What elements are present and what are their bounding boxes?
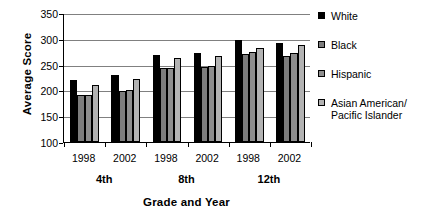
bar	[111, 75, 118, 142]
bar	[235, 40, 242, 142]
bar-group	[64, 14, 105, 142]
legend-label: Hispanic	[331, 68, 423, 80]
bar-group	[270, 14, 311, 142]
bar	[215, 56, 222, 142]
bar	[242, 54, 249, 142]
y-axis-tick-label: 350	[26, 9, 58, 19]
legend-label-line2: Pacific Islander	[331, 109, 423, 121]
bar	[194, 53, 201, 142]
legend-label: White	[331, 10, 423, 22]
bar	[119, 91, 126, 142]
x-axis-grade-label: 8th	[147, 173, 227, 185]
y-axis-tick-labels: 350300250200150100	[24, 14, 58, 143]
bar	[126, 90, 133, 142]
bar	[160, 68, 167, 142]
x-axis-tick-mark	[146, 142, 147, 147]
bar-group	[146, 14, 187, 142]
y-axis-tick-label: 250	[26, 61, 58, 71]
x-axis-grade-label: 12th	[229, 173, 309, 185]
y-axis-tick-label: 150	[26, 112, 58, 122]
x-axis-year-label: 2002	[103, 152, 147, 164]
bar	[85, 95, 92, 142]
legend-item: Hispanic	[318, 68, 423, 80]
x-axis-title: Grade and Year	[63, 196, 310, 208]
bar	[77, 95, 84, 142]
bar	[70, 80, 77, 142]
x-axis-tick-mark	[311, 142, 312, 147]
bar	[276, 43, 283, 142]
y-axis-tick-label: 100	[26, 138, 58, 148]
y-axis-tick-mark	[59, 143, 63, 144]
legend-item: White	[318, 10, 423, 22]
bar	[201, 67, 208, 142]
bar-group	[188, 14, 229, 142]
x-axis-grade-label: 4th	[64, 173, 144, 185]
x-axis-tick-mark	[105, 142, 106, 147]
x-axis-tick-mark	[270, 142, 271, 147]
bar	[133, 79, 140, 142]
bar	[256, 48, 263, 142]
legend-label: Black	[331, 39, 423, 51]
bar	[249, 52, 256, 142]
legend-swatch-white-icon	[318, 12, 325, 19]
x-axis-tick-mark	[64, 142, 65, 147]
x-axis-tick-mark	[229, 142, 230, 147]
bar-group	[105, 14, 146, 142]
legend-swatch-asian-icon	[318, 99, 325, 106]
x-axis-year-label: 2002	[267, 152, 311, 164]
legend-label: Asian American/Pacific Islander	[331, 97, 423, 121]
y-axis-tick-label: 300	[26, 35, 58, 45]
bar	[283, 56, 290, 142]
x-axis-tick-mark	[188, 142, 189, 147]
bar	[290, 53, 297, 142]
legend-swatch-hispanic-icon	[318, 70, 325, 77]
x-axis-year-label: 2002	[185, 152, 229, 164]
legend-item: Black	[318, 39, 423, 51]
bar	[153, 55, 160, 142]
bar-chart: Average Score 350300250200150100 1998200…	[0, 0, 425, 222]
legend-item: Asian American/Pacific Islander	[318, 97, 423, 121]
chart-legend: WhiteBlackHispanicAsian American/Pacific…	[318, 10, 423, 138]
legend-swatch-black-icon	[318, 41, 325, 48]
y-axis-tick-label: 200	[26, 86, 58, 96]
plot-area	[63, 14, 310, 143]
bar	[174, 58, 181, 142]
x-axis-year-label: 1998	[62, 152, 106, 164]
x-axis-year-label: 1998	[144, 152, 188, 164]
bar	[208, 66, 215, 142]
bar	[92, 85, 99, 142]
x-axis-year-label: 1998	[226, 152, 270, 164]
bar	[298, 45, 305, 142]
bar	[167, 68, 174, 142]
bar-group	[229, 14, 270, 142]
